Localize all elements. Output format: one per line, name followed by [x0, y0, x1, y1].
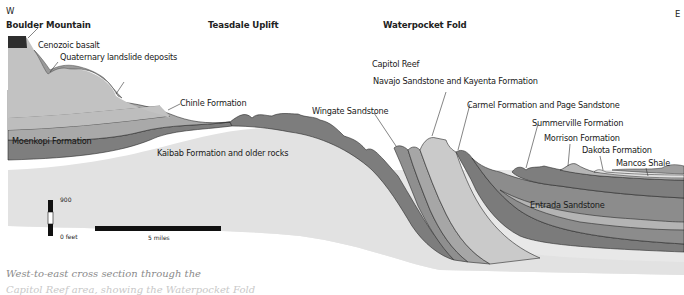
compass-east: E	[675, 9, 680, 19]
label-wingate: Wingate Sandstone	[312, 106, 388, 116]
horizontal-scale-bar	[95, 226, 221, 231]
scale-vertical-top: 900	[60, 196, 71, 203]
vertical-scale-white	[48, 212, 53, 224]
label-mancos: Mancos Shale	[616, 158, 670, 168]
label-cenozoic-basalt: Cenozoic basalt	[38, 40, 100, 50]
region-teasdale-uplift: Teasdale Uplift	[208, 20, 279, 30]
label-navajo-kayenta: Navajo Sandstone and Kayenta Formation	[373, 76, 538, 86]
vertical-scale-black-bottom	[48, 224, 53, 236]
figure-caption-line-2: Capitol Reef area, showing the Waterpock…	[6, 284, 255, 295]
label-moenkopi: Moenkopi Formation	[12, 136, 92, 146]
region-boulder-mountain: Boulder Mountain	[6, 20, 91, 30]
cenozoic-basalt	[8, 36, 27, 48]
label-kaibab: Kaibab Formation and older rocks	[157, 148, 288, 158]
label-chinle: Chinle Formation	[180, 98, 246, 108]
scale-horizontal-label: 5 miles	[148, 234, 170, 241]
region-waterpocket-fold: Waterpocket Fold	[383, 20, 467, 30]
label-summerville: Summerville Formation	[532, 118, 623, 128]
label-quaternary-landslide: Quaternary landslide deposits	[60, 52, 177, 62]
compass-west: W	[6, 6, 14, 16]
figure-caption-line-1: West-to-east cross section through the	[6, 268, 201, 279]
label-morrison: Morrison Formation	[544, 133, 620, 143]
label-entrada: Entrada Sandstone	[530, 200, 605, 210]
label-dakota: Dakota Formation	[582, 145, 652, 155]
scale-vertical-bottom: 0 feet	[60, 233, 78, 240]
label-carmel-page: Carmel Formation and Page Sandstone	[467, 100, 620, 110]
label-capitol-reef: Capitol Reef	[372, 59, 419, 69]
vertical-scale-black-top	[48, 200, 53, 212]
